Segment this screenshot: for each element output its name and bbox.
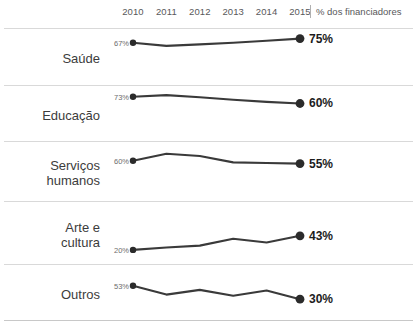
sparkline-path [133, 236, 300, 250]
sparkline-path [133, 39, 300, 46]
category-label-line: Saúde [0, 51, 100, 66]
sparkline-saúde [103, 28, 333, 85]
start-dot [130, 247, 136, 253]
sparkline-path [133, 154, 300, 164]
start-value-label: 67% [105, 39, 129, 48]
start-value-label: 20% [105, 246, 129, 255]
year-label-2011: 2011 [151, 6, 181, 17]
end-dot [296, 231, 305, 240]
sparkline-path [133, 286, 300, 299]
header-note: % dos financiadores [316, 6, 402, 17]
category-label-saúde: Saúde [0, 51, 100, 66]
end-value-label: 43% [309, 229, 333, 243]
chart-header: 201020112012201320142015 % dos financiad… [0, 0, 417, 26]
end-value-label: 75% [309, 32, 333, 46]
end-dot [296, 159, 305, 168]
chart-row: Saúde67%75% [0, 28, 417, 85]
category-label-line: Outros [0, 287, 100, 302]
bottom-divider [4, 320, 413, 321]
sparkline-outros [103, 264, 333, 320]
category-label-arte-e-cultura: Arte ecultura [0, 220, 100, 250]
category-label-outros: Outros [0, 287, 100, 302]
sparkline-arte-e-cultura [103, 201, 333, 264]
end-dot [296, 295, 305, 304]
category-label-line: Educação [0, 108, 100, 123]
category-label-serviços-humanos: Serviçoshumanos [0, 158, 100, 188]
start-dot [130, 94, 136, 100]
year-label-2014: 2014 [252, 6, 282, 17]
year-label-2013: 2013 [218, 6, 248, 17]
category-label-line: humanos [0, 173, 100, 188]
sparkline-serviços-humanos [103, 141, 333, 201]
chart-row: Outros53%30% [0, 264, 417, 320]
end-value-label: 30% [309, 292, 333, 306]
category-label-line: Arte e [0, 220, 100, 235]
start-value-label: 53% [105, 282, 129, 291]
end-dot [296, 34, 305, 43]
start-dot [130, 283, 136, 289]
sparkline-chart: 201020112012201320142015 % dos financiad… [0, 0, 417, 336]
end-dot [296, 99, 305, 108]
chart-row: Serviçoshumanos60%55% [0, 141, 417, 201]
header-divider-icon [310, 5, 311, 18]
end-value-label: 60% [309, 96, 333, 110]
sparkline-path [133, 95, 300, 103]
start-dot [130, 40, 136, 46]
year-label-2012: 2012 [185, 6, 215, 17]
start-dot [130, 158, 136, 164]
chart-row: Arte ecultura20%43% [0, 201, 417, 264]
category-label-line: cultura [0, 235, 100, 250]
chart-row: Educação73%60% [0, 85, 417, 141]
sparkline-educação [103, 85, 333, 141]
end-value-label: 55% [309, 157, 333, 171]
start-value-label: 73% [105, 93, 129, 102]
category-label-educação: Educação [0, 108, 100, 123]
category-label-line: Serviços [0, 158, 100, 173]
start-value-label: 60% [105, 157, 129, 166]
year-label-2010: 2010 [118, 6, 148, 17]
